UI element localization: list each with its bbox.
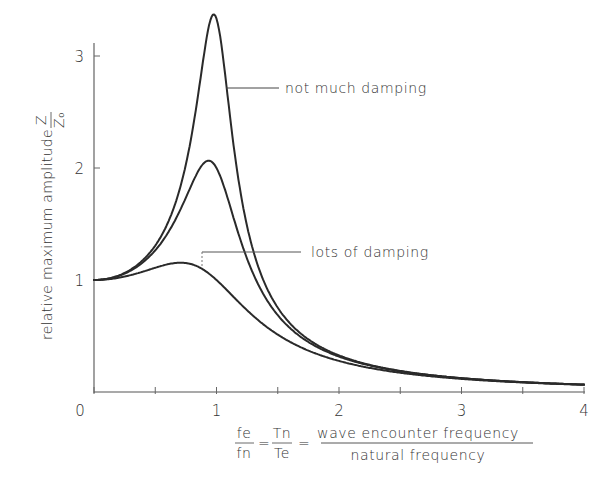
x-tick-label: 4 xyxy=(579,402,589,420)
annotation-lots-of-damping: lots of damping xyxy=(202,244,429,268)
curve-not-much-damping xyxy=(94,15,584,385)
x-label-tn: Tn xyxy=(273,425,292,441)
curves xyxy=(94,15,584,385)
x-tick-labels: 01234 xyxy=(75,402,589,420)
y-tick-labels: 123 xyxy=(74,48,84,290)
x-label-fn: fn xyxy=(236,445,251,461)
y-axis-label: relative maximum amplitude Z Z₀ xyxy=(33,112,67,340)
curve-medium-damping xyxy=(94,161,584,385)
y-ticks xyxy=(94,56,100,280)
y-tick-label: 3 xyxy=(74,48,84,66)
x-label-numerator: wave encounter frequency xyxy=(317,425,519,441)
x-label-te: Te xyxy=(274,445,290,461)
y-axis-label-frac-num: Z xyxy=(33,115,49,125)
x-label-eq-2: = xyxy=(298,435,310,451)
chart: 01234 123 not much damping lots of dampi… xyxy=(0,0,614,492)
x-ticks xyxy=(94,387,584,394)
curve-lots-of-damping xyxy=(94,263,584,385)
annotation-label: lots of damping xyxy=(311,244,429,260)
y-axis-label-frac-den: Z₀ xyxy=(51,112,67,128)
x-tick-label: 3 xyxy=(457,402,467,420)
annotation-label: not much damping xyxy=(285,80,427,96)
x-label-eq-1: = xyxy=(258,435,270,451)
x-tick-label: 2 xyxy=(334,402,344,420)
x-label-denominator: natural frequency xyxy=(351,447,486,463)
x-axis-label: fe fn = Tn Te = wave encounter frequency… xyxy=(235,425,533,463)
y-tick-label: 2 xyxy=(74,160,84,178)
x-tick-label: 0 xyxy=(75,402,85,420)
x-label-fe: fe xyxy=(237,425,252,441)
annotation-not-much-damping: not much damping xyxy=(226,80,427,96)
y-tick-label: 1 xyxy=(74,272,84,290)
x-tick-label: 1 xyxy=(212,402,222,420)
y-axis-label-text: relative maximum amplitude xyxy=(39,129,55,340)
